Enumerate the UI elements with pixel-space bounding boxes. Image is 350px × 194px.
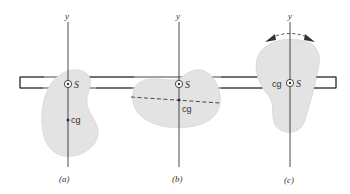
cg-dot-a — [67, 119, 70, 122]
shear-center-label-c: S — [296, 78, 301, 89]
cg-label-a: cg — [71, 115, 81, 125]
shear-center-dot-c — [289, 82, 291, 84]
y-axis-label-a: y — [64, 11, 69, 21]
caption-a: (a) — [59, 174, 70, 184]
panel-b: y S cg (b) — [131, 11, 220, 184]
cg-dot-b — [178, 99, 181, 102]
shear-center-diagram: y S cg (a) y S cg (b) y S cg (c) — [0, 0, 350, 194]
shear-center-dot-a — [67, 83, 69, 85]
shear-center-dot-b — [178, 83, 180, 85]
panel-c: y S cg (c) — [256, 11, 319, 185]
panel-a: y S cg (a) — [42, 11, 99, 184]
shear-center-label-b: S — [185, 79, 190, 90]
y-axis-label-c: y — [287, 11, 292, 21]
caption-b: (b) — [172, 174, 183, 184]
shear-center-label-a: S — [74, 79, 79, 90]
y-axis-label-b: y — [175, 11, 180, 21]
cg-label-c: cg — [272, 79, 282, 89]
cg-label-b: cg — [182, 104, 192, 114]
caption-c: (c) — [284, 175, 294, 185]
